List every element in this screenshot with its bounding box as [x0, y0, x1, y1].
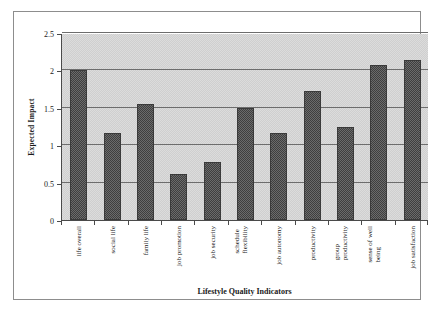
x-axis-tick-label-group: life overallsocial lifefamily lifejob pr…: [61, 226, 428, 284]
y-axis-tick-label: 2.5: [44, 30, 54, 39]
x-axis-tick-mark: [427, 221, 428, 225]
bar: [404, 60, 421, 220]
figure-frame: Expected Impact 00.511.522.5 life overal…: [13, 11, 421, 300]
bar: [104, 133, 121, 220]
x-axis-title: Lifestyle Quality Indicators: [61, 287, 428, 296]
y-axis-tick-label: 1.5: [44, 104, 54, 113]
x-axis-tick-label: job security: [210, 226, 218, 259]
bar: [304, 91, 321, 220]
y-axis-tick-label: 2: [50, 67, 54, 76]
x-axis-tick-mark: [194, 221, 195, 225]
x-axis-tick-label: productivity: [310, 226, 318, 260]
bar: [237, 108, 254, 220]
bar: [337, 127, 354, 220]
x-axis-tick-mark: [328, 221, 329, 225]
y-axis-tick-label: 0: [50, 217, 54, 226]
x-axis-tick-label: social life: [110, 226, 118, 253]
x-axis-tick-mark: [161, 221, 162, 225]
plot-area: [61, 34, 428, 221]
bar: [204, 162, 221, 220]
bar: [170, 174, 187, 220]
x-axis-tick-mark: [61, 221, 62, 225]
x-axis-tick-mark: [228, 221, 229, 225]
x-axis-tick-mark: [94, 221, 95, 225]
x-axis-tick-mark: [295, 221, 296, 225]
gridline: [62, 32, 428, 33]
x-axis-tick-mark: [395, 221, 396, 225]
x-axis-tick-group: [61, 221, 428, 225]
bar: [70, 70, 87, 220]
x-axis-tick-mark: [261, 221, 262, 225]
x-axis-tick-label: group productivity: [334, 226, 349, 260]
x-axis-tick-mark: [361, 221, 362, 225]
x-axis-tick-mark: [128, 221, 129, 225]
x-axis-tick-label: job autonomy: [277, 226, 285, 265]
y-axis-tick-group: 00.511.522.5: [14, 12, 61, 222]
y-axis-tick-label: 1: [50, 142, 54, 151]
bar: [370, 65, 387, 220]
x-axis-tick-label: sense of well being: [367, 226, 382, 263]
x-axis-tick-label: schedule flexibility: [234, 226, 249, 254]
x-axis-tick-label: life overall: [76, 226, 84, 257]
x-axis-tick-label: job promotion: [177, 226, 185, 266]
bar: [137, 104, 154, 220]
x-axis-tick-label: job satisfaction: [410, 226, 418, 269]
bar: [270, 133, 287, 220]
y-axis-tick-label: 0.5: [44, 179, 54, 188]
x-axis-tick-label: family life: [143, 226, 151, 255]
